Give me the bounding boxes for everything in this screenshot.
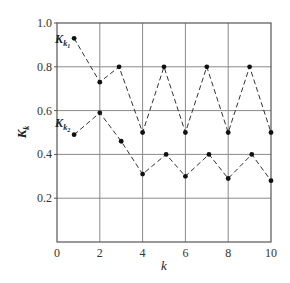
y-tick-label: 1.0 xyxy=(37,16,52,30)
data-point xyxy=(164,152,169,157)
x-tick-label: 6 xyxy=(182,246,188,260)
data-point xyxy=(183,174,188,179)
series-k-k1: Kk1 xyxy=(54,32,273,135)
x-tick-label: 8 xyxy=(225,246,231,260)
data-point xyxy=(269,178,274,183)
data-point xyxy=(247,64,252,69)
series-group: Kk1Kk2 xyxy=(54,32,273,183)
x-tick-label: 4 xyxy=(140,246,146,260)
series-label-sub2: 2 xyxy=(66,127,70,133)
data-point xyxy=(269,130,274,135)
data-point xyxy=(140,172,145,177)
x-tick-label: 10 xyxy=(265,246,277,260)
data-point xyxy=(162,64,167,69)
data-point xyxy=(183,130,188,135)
y-tick-label: 0.8 xyxy=(37,60,52,74)
data-point xyxy=(97,110,102,115)
x-axis-label: k xyxy=(161,258,167,273)
y-tick-labels: 0.20.40.60.81.0 xyxy=(37,16,52,205)
data-point xyxy=(140,130,145,135)
series-label-sub2: 1 xyxy=(67,43,70,49)
y-tick-label: 0.2 xyxy=(37,191,52,205)
axes xyxy=(54,23,271,242)
data-point xyxy=(72,36,77,41)
x-tick-label: 0 xyxy=(54,246,60,260)
data-point xyxy=(226,176,231,181)
data-point xyxy=(72,132,77,137)
data-point xyxy=(97,80,102,85)
y-tick-label: 0.4 xyxy=(37,147,52,161)
series-k-k2: Kk2 xyxy=(54,110,273,183)
y-tick-label: 0.6 xyxy=(37,104,52,118)
chart: 0246810 0.20.40.60.81.0 Kk1Kk2 k Kk xyxy=(0,0,290,283)
data-point xyxy=(207,152,212,157)
data-point xyxy=(117,64,122,69)
y-axis-label-sub: k xyxy=(22,126,31,130)
data-point xyxy=(226,130,231,135)
series-line xyxy=(74,113,271,181)
data-point xyxy=(119,139,124,144)
plot-frame xyxy=(57,23,271,242)
data-point xyxy=(249,152,254,157)
data-point xyxy=(204,64,209,69)
y-axis-label: Kk xyxy=(14,126,31,140)
x-tick-label: 2 xyxy=(97,246,103,260)
grid xyxy=(57,23,271,242)
